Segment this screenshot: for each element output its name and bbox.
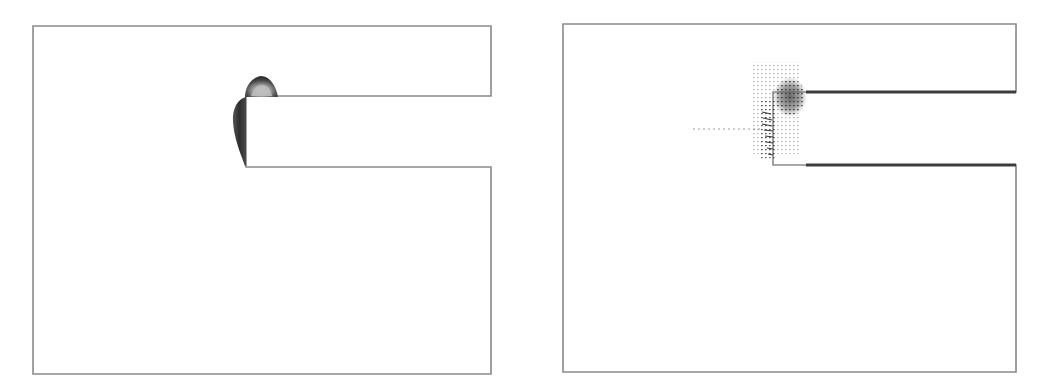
left-panel-contour-plot bbox=[33, 26, 491, 374]
figure-canvas bbox=[0, 0, 1052, 389]
right-vortex-vectors bbox=[775, 79, 805, 115]
left-contour-teardrop bbox=[233, 97, 246, 166]
right-panel-vector-field bbox=[563, 24, 1016, 372]
